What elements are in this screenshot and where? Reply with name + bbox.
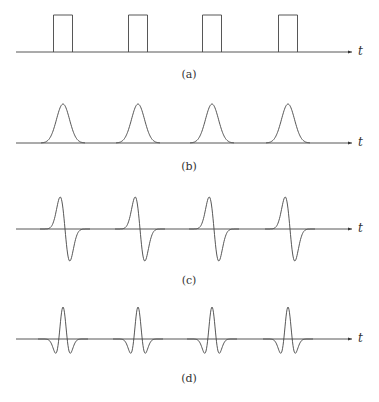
axis-label-t-b: t [358,135,363,149]
pulse-curve [41,104,85,143]
pulse-curve [189,197,239,261]
pulse-curve [203,15,222,52]
pulse-curve [115,197,165,261]
pulse-curve [263,307,313,353]
pulse-curve [187,307,237,353]
axis-label-t-a: t [358,44,363,58]
pulse-curve [38,307,88,353]
axis-label-t-d: t [358,331,363,345]
pulse-diagrams [0,0,379,402]
pulse-curve [116,104,160,143]
axis-label-t-c: t [358,221,363,235]
pulse-curve [279,15,298,52]
pulse-curve [40,197,90,261]
pulse-curve [129,15,148,52]
panel-label-c: (c) [182,274,197,287]
pulse-curve [190,104,234,143]
panel-label-d: (d) [181,372,197,385]
pulse-curve [113,307,163,353]
panel-label-b: (b) [181,160,197,173]
pulse-curve [266,104,310,143]
pulse-curve [54,15,73,52]
pulse-curve [265,197,315,261]
panel-label-a: (a) [181,68,196,81]
